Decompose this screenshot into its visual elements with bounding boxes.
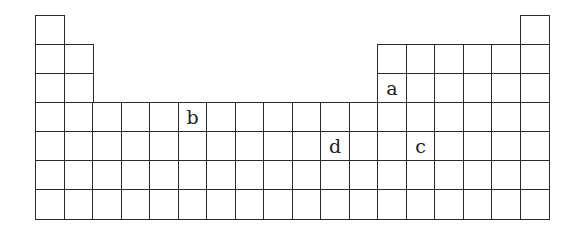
element-cell-r7-c14 xyxy=(406,189,436,220)
element-cell-r3-c1 xyxy=(35,73,65,104)
element-cell-r5-c17 xyxy=(491,131,521,162)
element-cell-r5-c16 xyxy=(463,131,493,162)
element-cell-r4-c15 xyxy=(434,102,464,133)
element-cell-r6-c17 xyxy=(491,160,521,191)
element-cell-r3-c15 xyxy=(434,73,464,104)
element-cell-r5-c15 xyxy=(434,131,464,162)
element-label: c xyxy=(415,135,426,157)
element-cell-r5-c5 xyxy=(149,131,179,162)
element-cell-r5-c18 xyxy=(520,131,550,162)
element-cell-r2-c14 xyxy=(406,44,436,75)
element-cell-r7-c7 xyxy=(206,189,236,220)
element-cell-r7-c5 xyxy=(149,189,179,220)
element-cell-r7-c15 xyxy=(434,189,464,220)
element-cell-r7-c3 xyxy=(92,189,122,220)
element-cell-r7-c6 xyxy=(178,189,208,220)
element-cell-r2-c15 xyxy=(434,44,464,75)
element-cell-r4-c13 xyxy=(377,102,407,133)
element-cell-r3-c17 xyxy=(491,73,521,104)
element-cell-r6-c9 xyxy=(263,160,293,191)
element-cell-r5-c7 xyxy=(206,131,236,162)
element-cell-r6-c8 xyxy=(235,160,265,191)
periodic-table-diagram: abdc xyxy=(0,0,577,228)
element-cell-r4-c17 xyxy=(491,102,521,133)
element-label: b xyxy=(186,106,198,128)
element-cell-r1-c18 xyxy=(520,15,550,46)
element-cell-r6-c2 xyxy=(64,160,94,191)
element-cell-r1-c1 xyxy=(35,15,65,46)
element-cell-r4-c2 xyxy=(64,102,94,133)
element-cell-r6-c4 xyxy=(121,160,151,191)
element-cell-r7-c4 xyxy=(121,189,151,220)
element-cell-r6-c1 xyxy=(35,160,65,191)
element-cell-r3-c2 xyxy=(64,73,94,104)
element-cell-r2-c2 xyxy=(64,44,94,75)
element-cell-r6-c6 xyxy=(178,160,208,191)
element-cell-r6-c7 xyxy=(206,160,236,191)
element-cell-r4-c9 xyxy=(263,102,293,133)
element-cell-r2-c17 xyxy=(491,44,521,75)
element-cell-r6-c16 xyxy=(463,160,493,191)
element-cell-r4-c6: b xyxy=(178,102,208,133)
element-cell-r5-c9 xyxy=(263,131,293,162)
element-cell-r4-c11 xyxy=(320,102,350,133)
element-cell-r3-c16 xyxy=(463,73,493,104)
element-cell-r5-c13 xyxy=(377,131,407,162)
element-cell-r5-c2 xyxy=(64,131,94,162)
element-cell-r2-c16 xyxy=(463,44,493,75)
element-cell-r5-c11: d xyxy=(320,131,350,162)
element-cell-r4-c3 xyxy=(92,102,122,133)
element-cell-r2-c1 xyxy=(35,44,65,75)
element-cell-r4-c14 xyxy=(406,102,436,133)
element-cell-r7-c12 xyxy=(349,189,379,220)
element-cell-r6-c13 xyxy=(377,160,407,191)
element-cell-r4-c7 xyxy=(206,102,236,133)
element-cell-r5-c14: c xyxy=(406,131,436,162)
element-cell-r6-c18 xyxy=(520,160,550,191)
element-cell-r3-c14 xyxy=(406,73,436,104)
element-cell-r4-c8 xyxy=(235,102,265,133)
element-cell-r5-c1 xyxy=(35,131,65,162)
element-cell-r4-c16 xyxy=(463,102,493,133)
element-cell-r7-c11 xyxy=(320,189,350,220)
element-cell-r7-c16 xyxy=(463,189,493,220)
element-cell-r4-c1 xyxy=(35,102,65,133)
element-cell-r4-c12 xyxy=(349,102,379,133)
element-cell-r3-c18 xyxy=(520,73,550,104)
element-cell-r7-c1 xyxy=(35,189,65,220)
element-cell-r7-c10 xyxy=(292,189,322,220)
element-cell-r5-c10 xyxy=(292,131,322,162)
element-label: d xyxy=(329,135,341,157)
element-cell-r6-c5 xyxy=(149,160,179,191)
element-cell-r4-c4 xyxy=(121,102,151,133)
element-cell-r7-c8 xyxy=(235,189,265,220)
element-cell-r6-c15 xyxy=(434,160,464,191)
element-cell-r4-c5 xyxy=(149,102,179,133)
element-cell-r3-c13: a xyxy=(377,73,407,104)
element-cell-r7-c13 xyxy=(377,189,407,220)
element-cell-r4-c18 xyxy=(520,102,550,133)
element-cell-r2-c18 xyxy=(520,44,550,75)
element-cell-r6-c10 xyxy=(292,160,322,191)
element-cell-r6-c3 xyxy=(92,160,122,191)
element-cell-r6-c12 xyxy=(349,160,379,191)
element-cell-r5-c6 xyxy=(178,131,208,162)
element-cell-r7-c18 xyxy=(520,189,550,220)
element-cell-r7-c17 xyxy=(491,189,521,220)
element-cell-r6-c11 xyxy=(320,160,350,191)
element-cell-r5-c12 xyxy=(349,131,379,162)
element-cell-r6-c14 xyxy=(406,160,436,191)
element-cell-r5-c3 xyxy=(92,131,122,162)
element-cell-r7-c9 xyxy=(263,189,293,220)
element-cell-r2-c13 xyxy=(377,44,407,75)
element-cell-r7-c2 xyxy=(64,189,94,220)
element-label: a xyxy=(386,77,397,99)
element-cell-r5-c8 xyxy=(235,131,265,162)
element-cell-r5-c4 xyxy=(121,131,151,162)
element-cell-r4-c10 xyxy=(292,102,322,133)
